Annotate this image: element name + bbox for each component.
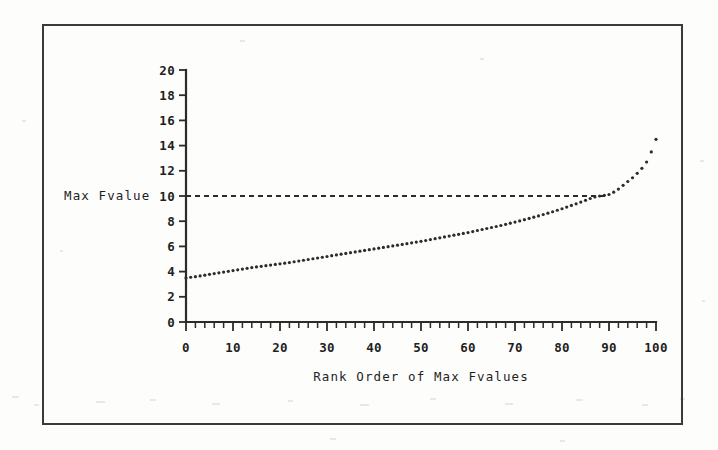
data-point xyxy=(250,266,253,269)
data-point xyxy=(222,271,225,274)
x-tick-label: 70 xyxy=(507,340,523,355)
data-point xyxy=(650,150,653,153)
x-tick-label: 0 xyxy=(182,340,190,355)
y-axis-title: Max Fvalue xyxy=(64,188,150,203)
data-point xyxy=(349,251,352,254)
data-point xyxy=(208,273,211,276)
data-point xyxy=(358,250,361,253)
x-tick-label: 80 xyxy=(554,340,570,355)
data-point xyxy=(617,187,620,190)
data-point xyxy=(405,242,408,245)
data-point xyxy=(325,255,328,258)
data-point xyxy=(410,241,413,244)
data-point xyxy=(528,217,531,220)
data-point xyxy=(307,258,310,261)
x-tick-label: 50 xyxy=(413,340,429,355)
x-axis-tick-labels: 0102030405060708090100 xyxy=(182,340,668,355)
data-point xyxy=(631,176,634,179)
data-point xyxy=(377,247,380,250)
data-point xyxy=(612,191,615,194)
data-point xyxy=(260,265,263,268)
data-point xyxy=(622,184,625,187)
data-point xyxy=(419,240,422,243)
y-tick-label: 12 xyxy=(159,163,175,178)
y-tick-label: 0 xyxy=(167,315,175,330)
data-point xyxy=(593,195,596,198)
data-point xyxy=(636,172,639,175)
data-point xyxy=(396,244,399,247)
y-tick-label: 2 xyxy=(167,289,175,304)
data-point xyxy=(626,180,629,183)
data-point xyxy=(344,252,347,255)
data-point xyxy=(269,263,272,266)
data-point xyxy=(236,268,239,271)
data-point xyxy=(499,224,502,227)
data-point xyxy=(518,219,521,222)
data-point xyxy=(424,239,427,242)
data-point xyxy=(654,138,657,141)
data-point-series xyxy=(184,138,657,280)
y-tick-label: 8 xyxy=(167,214,175,229)
data-point xyxy=(584,199,587,202)
y-tick-label: 20 xyxy=(159,63,175,78)
data-point xyxy=(415,241,418,244)
y-tick-label: 10 xyxy=(159,189,175,204)
data-point xyxy=(495,225,498,228)
data-point xyxy=(387,245,390,248)
data-point xyxy=(523,218,526,221)
data-point xyxy=(199,274,202,277)
data-point xyxy=(264,264,267,267)
data-point xyxy=(537,214,540,217)
data-point xyxy=(278,262,281,265)
data-point xyxy=(335,253,338,256)
data-point xyxy=(504,223,507,226)
data-point xyxy=(457,233,460,236)
data-point xyxy=(401,243,404,246)
data-point xyxy=(316,256,319,259)
data-point xyxy=(203,274,206,277)
data-point xyxy=(471,230,474,233)
data-point xyxy=(452,234,455,237)
data-point xyxy=(603,194,606,197)
y-axis-tick-labels: 02468101214161820 xyxy=(159,63,175,330)
data-point xyxy=(429,238,432,241)
data-point xyxy=(481,228,484,231)
y-tick-label: 18 xyxy=(159,88,175,103)
data-point xyxy=(556,209,559,212)
data-point xyxy=(443,235,446,238)
data-point xyxy=(184,276,187,279)
x-axis-title: Rank Order of Max Fvalues xyxy=(313,369,529,384)
data-point xyxy=(575,202,578,205)
x-tick-label: 100 xyxy=(644,340,667,355)
data-point xyxy=(330,254,333,257)
data-point xyxy=(274,263,277,266)
data-point xyxy=(363,249,366,252)
data-point xyxy=(382,246,385,249)
data-point xyxy=(438,236,441,239)
y-tick-label: 16 xyxy=(159,113,175,128)
data-point xyxy=(213,272,216,275)
data-point xyxy=(560,207,563,210)
data-point xyxy=(297,259,300,262)
x-tick-label: 10 xyxy=(225,340,241,355)
x-tick-label: 90 xyxy=(601,340,617,355)
data-point xyxy=(462,232,465,235)
data-point xyxy=(321,256,324,259)
data-point xyxy=(546,212,549,215)
data-point xyxy=(476,229,479,232)
data-point xyxy=(448,234,451,237)
x-tick-label: 30 xyxy=(319,340,335,355)
data-point xyxy=(246,267,249,270)
data-point xyxy=(598,194,601,197)
data-point xyxy=(513,220,516,223)
data-point xyxy=(368,248,371,251)
data-point xyxy=(551,210,554,213)
data-point xyxy=(509,222,512,225)
data-point xyxy=(293,260,296,263)
data-point xyxy=(532,216,535,219)
data-point xyxy=(589,197,592,200)
data-point xyxy=(640,167,643,170)
chart-plot-area: 02468101214161820 0102030405060708090100… xyxy=(0,0,718,450)
data-point xyxy=(354,250,357,253)
data-point xyxy=(227,270,230,273)
